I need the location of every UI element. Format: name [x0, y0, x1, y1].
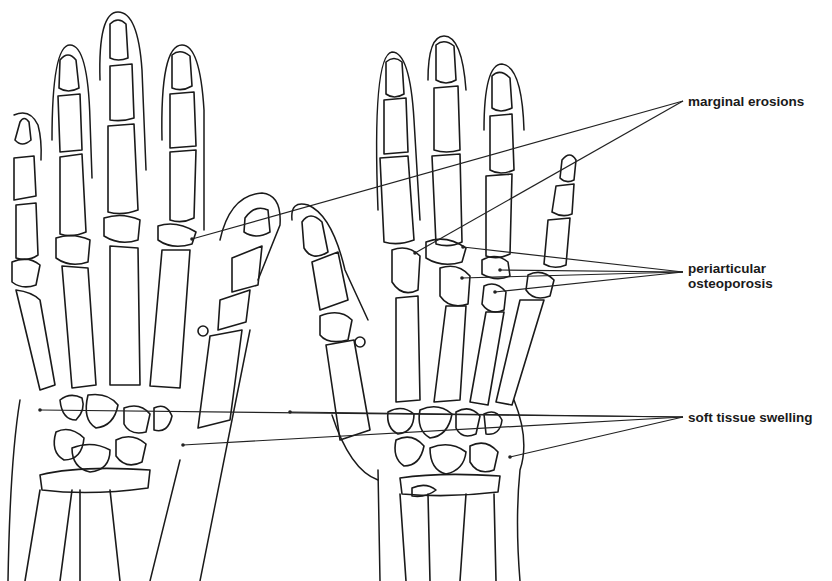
leader-dot-soft-tissue-swelling [181, 443, 185, 447]
label-marginal-erosions: marginal erosions [688, 94, 804, 109]
label-periarticular-osteoporosis: periarticular osteoporosis [688, 261, 773, 291]
right-middle-finger [426, 36, 470, 402]
leader-dot-periarticular-osteoporosis [498, 268, 502, 272]
right-index-finger [377, 52, 420, 402]
leader-line-soft-tissue-swelling [183, 417, 683, 445]
leader-dot-soft-tissue-swelling [508, 455, 512, 459]
leader-dot-periarticular-osteoporosis [460, 276, 464, 280]
leader-dot-periarticular-osteoporosis [493, 290, 497, 294]
left-little-finger [12, 113, 55, 390]
left-middle-finger [100, 12, 146, 385]
left-index-finger [150, 45, 204, 388]
leader-line-periarticular-osteoporosis [500, 270, 683, 272]
left-thumb [198, 193, 280, 581]
leader-dot-marginal-erosions [190, 237, 194, 241]
leader-line-marginal-erosions [192, 101, 683, 239]
label-soft-tissue-swelling-text: soft tissue swelling [688, 410, 813, 425]
right-hand [292, 36, 576, 581]
right-ring-finger [470, 64, 524, 405]
label-periarticular-line1: periarticular [688, 261, 773, 276]
left-ring-finger [52, 45, 96, 388]
label-marginal-erosions-text: marginal erosions [688, 94, 804, 109]
leader-dot-soft-tissue-swelling [288, 410, 292, 414]
left-hand [8, 12, 280, 581]
leader-dot-periarticular-osteoporosis [461, 245, 465, 249]
leader-line-marginal-erosions [415, 101, 683, 253]
label-periarticular-line2: osteoporosis [688, 276, 773, 291]
leader-line-periarticular-osteoporosis [463, 247, 683, 272]
left-carpals [8, 394, 180, 581]
leader-dot-soft-tissue-swelling [38, 408, 42, 412]
label-soft-tissue-swelling: soft tissue swelling [688, 410, 813, 425]
right-little-finger [496, 155, 576, 405]
leader-dot-marginal-erosions [413, 251, 417, 255]
leader-line-soft-tissue-swelling [510, 417, 683, 457]
